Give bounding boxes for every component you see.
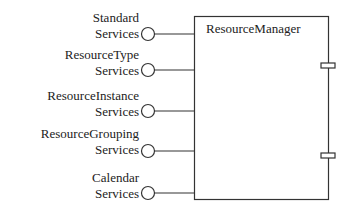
port-2[interactable] — [321, 153, 335, 158]
label-line: Calendar — [92, 170, 139, 186]
port-1[interactable] — [321, 63, 335, 68]
label-line: ResourceInstance — [47, 88, 139, 104]
interface-label-resourcegrouping: ResourceGrouping Services — [41, 126, 139, 158]
label-line: ResourceType — [65, 47, 139, 63]
label-line: Services — [41, 142, 139, 158]
label-line: Services — [92, 186, 139, 202]
interface-resourcegrouping[interactable] — [142, 145, 195, 158]
component-box[interactable] — [195, 17, 329, 200]
component-name: ResourceManager — [206, 21, 301, 37]
label-line: Services — [93, 26, 139, 42]
label-line: ResourceGrouping — [41, 126, 139, 142]
interface-label-resourceinstance: ResourceInstance Services — [47, 88, 139, 120]
label-line: Services — [65, 63, 139, 79]
interface-label-resourcetype: ResourceType Services — [65, 47, 139, 79]
label-line: Services — [47, 104, 139, 120]
label-line: Standard — [93, 10, 139, 26]
interface-standard[interactable] — [142, 28, 195, 41]
interface-label-standard: Standard Services — [93, 10, 139, 42]
interface-calendar[interactable] — [142, 187, 195, 200]
interface-resourcetype[interactable] — [142, 64, 195, 77]
interface-label-calendar: Calendar Services — [92, 170, 139, 202]
interface-resourceinstance[interactable] — [142, 105, 195, 118]
